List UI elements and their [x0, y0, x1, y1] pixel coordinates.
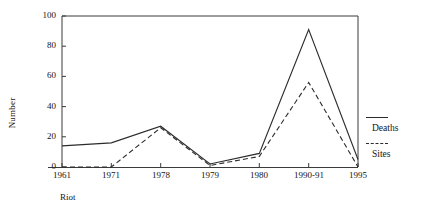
legend-label-sites: Sites — [372, 149, 390, 160]
x-axis-caption: Riot — [60, 192, 76, 202]
y-tick-label-80: 80 — [30, 41, 56, 50]
legend-entry-deaths: Deaths — [366, 112, 424, 138]
y-tick-label-60: 60 — [30, 71, 56, 80]
chart-legend: Deaths Sites — [366, 112, 424, 164]
legend-swatch-solid-icon — [366, 117, 388, 118]
y-tick-label-40: 40 — [30, 102, 56, 111]
line-chart: Number 0 20 40 60 80 100 — [0, 0, 424, 215]
x-tick-label-1995: 1995 — [329, 170, 387, 180]
y-axis-title: Number — [7, 83, 17, 143]
y-tick-label-100: 100 — [28, 11, 56, 20]
legend-label-deaths: Deaths — [372, 123, 398, 134]
series-line-deaths — [62, 30, 358, 164]
y-tick-label-20: 20 — [30, 132, 56, 141]
plot-area — [0, 0, 424, 215]
legend-entry-sites: Sites — [366, 138, 424, 164]
y-axis-ticks — [62, 16, 66, 167]
series-line-sites — [62, 82, 358, 167]
legend-swatch-dashed-icon — [366, 143, 388, 144]
